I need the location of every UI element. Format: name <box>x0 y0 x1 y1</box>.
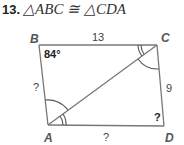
side-label-ab: ? <box>33 81 39 93</box>
angle-label-b: 84° <box>44 48 61 60</box>
side-da <box>48 125 164 126</box>
diagonal-ac <box>48 45 157 125</box>
angle-mark-cad-1 <box>60 116 63 125</box>
side-label-ad: ? <box>103 131 109 143</box>
vertex-label-b: B <box>30 32 39 46</box>
vertex-label-d: D <box>165 131 174 145</box>
angle-mark-bac <box>45 100 68 110</box>
angle-mark-acd <box>138 59 159 69</box>
vertex-label-a: A <box>43 131 53 145</box>
vertex-label-c: C <box>161 31 170 45</box>
angle-label-d: ? <box>154 111 161 123</box>
side-label-bc: 13 <box>92 31 104 43</box>
angle-mark-bca-1 <box>141 45 144 54</box>
geometry-figure: B C A D 13 9 ? ? 84° ? <box>0 0 184 145</box>
side-label-cd: 9 <box>166 82 172 94</box>
